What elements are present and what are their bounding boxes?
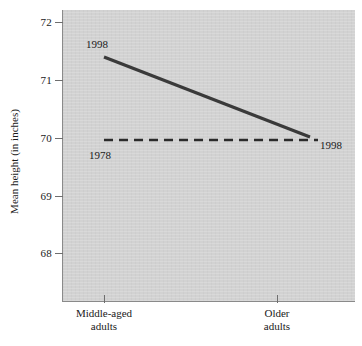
x-tick-label-line2: adults bbox=[217, 320, 337, 333]
y-tick-mark-70 bbox=[55, 138, 63, 139]
chart-figure: 72 71 70 69 68 Mean height (in inches) M… bbox=[0, 0, 362, 346]
annotation-1998-left: 1998 bbox=[86, 39, 108, 50]
x-tick-label-line2: adults bbox=[44, 320, 164, 333]
x-tick-label-middle-aged-adults: Middle-aged adults bbox=[44, 307, 164, 333]
x-tick-label-line1: Older bbox=[217, 307, 337, 320]
annotation-1978-left: 1978 bbox=[89, 150, 111, 161]
y-axis-title: Mean height (in inches) bbox=[9, 82, 20, 242]
y-tick-mark-71 bbox=[55, 80, 63, 81]
annotation-1998-right: 1998 bbox=[320, 140, 342, 151]
y-tick-mark-72 bbox=[55, 22, 63, 23]
x-tick-mark-middle-aged-adults bbox=[104, 295, 105, 303]
y-tick-label-72: 72 bbox=[12, 17, 52, 28]
x-tick-label-older-adults: Older adults bbox=[217, 307, 337, 333]
y-tick-label-68: 68 bbox=[12, 248, 52, 259]
y-tick-mark-69 bbox=[55, 196, 63, 197]
x-tick-mark-older-adults bbox=[277, 295, 278, 303]
x-tick-label-line1: Middle-aged bbox=[44, 307, 164, 320]
y-tick-mark-68 bbox=[55, 253, 63, 254]
